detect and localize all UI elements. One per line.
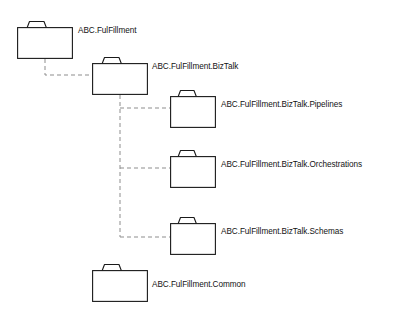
connector-root-to-biztalk [45,59,92,75]
node-common[interactable] [92,263,148,302]
node-root[interactable] [17,20,73,59]
node-schemas[interactable] [170,216,216,255]
folder-icon [170,89,216,128]
node-biztalk[interactable] [92,56,148,95]
folder-icon [170,216,216,255]
node-label-common: ABC.FulFillment.Common [152,280,246,290]
folder-icon [170,149,216,188]
folder-icon [17,20,73,59]
node-orchestrations[interactable] [170,149,216,188]
folder-icon [92,56,148,95]
diagram-canvas: ABC.FulFillment ABC.FulFillment.BizTalk … [0,0,411,326]
node-label-pipelines: ABC.FulFillment.BizTalk.Pipelines [221,100,342,110]
node-label-biztalk: ABC.FulFillment.BizTalk [152,62,238,72]
node-pipelines[interactable] [170,89,216,128]
node-label-root: ABC.FulFillment [78,26,136,36]
node-label-schemas: ABC.FulFillment.BizTalk.Schemas [221,227,343,237]
folder-icon [92,263,148,302]
node-label-orchestrations: ABC.FulFillment.BizTalk.Orchestrations [221,160,362,170]
